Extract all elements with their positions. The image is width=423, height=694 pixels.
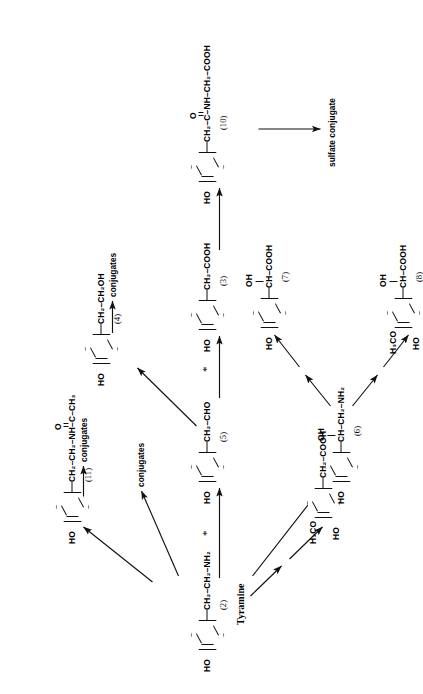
compound-number-8: (8) xyxy=(413,272,423,282)
label-h3co-9: H₃CO xyxy=(308,521,316,544)
compound-number-3: (3) xyxy=(217,276,227,286)
label-oh-7: OH xyxy=(244,274,252,287)
arrow-6-to-7-seg1 xyxy=(305,375,330,406)
label-ho-6: HO xyxy=(336,491,344,504)
label-ho-9: HO xyxy=(331,527,339,540)
label-ho-3: HO xyxy=(202,339,210,352)
compound-number-2: (2) xyxy=(217,600,227,610)
compound-name-tyramine: Tyramine xyxy=(234,584,245,625)
compound-4: HO CH₂–CH₂OH (4) xyxy=(84,334,118,364)
compound-number-4: (4) xyxy=(111,314,121,324)
label-ho-2: HO xyxy=(202,659,210,672)
compound-number-7: (7) xyxy=(279,272,289,282)
benzene-ring-icon xyxy=(324,452,358,482)
arrow-5-to-4 xyxy=(137,368,196,426)
sidechain-2: CH₂–CH₂–NH₂ xyxy=(202,551,210,610)
benzene-ring-icon xyxy=(190,620,224,650)
sidechain-11: CH₂–CH₂–NH–C–CH₃ xyxy=(67,394,75,482)
label-oh-8: OH xyxy=(378,274,386,287)
compound-3: HO CH₂–COOH (3) xyxy=(190,300,224,330)
arrow-6-to-7-seg2 xyxy=(274,335,299,367)
compound-8: HO H₃CO CH–COOH OH (8) xyxy=(386,298,420,328)
label-ho-7: HO xyxy=(264,337,272,350)
arrow-6-to-8-seg1 xyxy=(352,375,377,406)
arrow-tyramine-to-conjugates-mid xyxy=(141,491,178,576)
benzene-ring-icon xyxy=(386,298,420,328)
sidechain-5: CH₂–CHO xyxy=(202,402,210,443)
compound-number-11: (11) xyxy=(82,468,92,482)
conjugates-middle: conjugates xyxy=(135,443,145,487)
benzene-ring-icon xyxy=(55,492,89,522)
asterisk-step-1: * xyxy=(200,531,211,537)
benzene-ring-icon xyxy=(190,152,224,182)
conjugates-top: conjugates xyxy=(78,418,88,462)
benzene-ring-icon xyxy=(190,452,224,482)
sidechain-10: CH₂–C–NH–CH₂–COOH xyxy=(202,45,210,142)
label-o-10: O xyxy=(188,112,196,119)
sidechain-6: CH–CH₂–NH₂ xyxy=(336,387,344,442)
label-ho-8: HO xyxy=(411,337,419,350)
compound-number-5: (5) xyxy=(217,432,227,442)
benzene-ring-icon xyxy=(252,298,286,328)
compound-11: HO CH₂–CH₂–NH–C–CH₃ O (11) xyxy=(55,492,89,522)
compound-7: HO CH–COOH OH (7) xyxy=(252,298,286,328)
sulfate-conjugate-label: sulfate conjugate xyxy=(326,98,336,167)
compound-6: HO CH–CH₂–NH₂ OH (6) xyxy=(324,452,358,482)
label-h3co-8: H₃CO xyxy=(388,331,396,354)
sidechain-4: CH₂–CH₂OH xyxy=(96,273,104,324)
arrow-tyramine-to-9-seg1 xyxy=(250,566,281,596)
compound-5: HO CH₂–CHO (5) xyxy=(190,452,224,482)
compound-10: HO CH₂–C–NH–CH₂–COOH O (10) xyxy=(190,152,224,182)
conjugates-right: conjugates xyxy=(107,253,117,297)
compound-number-10: (10) xyxy=(217,116,227,130)
asterisk-step-2: * xyxy=(200,367,211,373)
label-o-11: O xyxy=(53,423,61,430)
sidechain-3: CH₂–COOH xyxy=(202,243,210,290)
label-oh-6: OH xyxy=(316,428,324,441)
benzene-ring-icon xyxy=(190,300,224,330)
label-ho-11: HO xyxy=(67,531,75,544)
label-ho-4: HO xyxy=(96,373,104,386)
sidechain-8: CH–COOH xyxy=(398,245,406,288)
sidechain-7: CH–COOH xyxy=(264,245,272,288)
compound-number-6: (6) xyxy=(351,426,361,436)
compound-2-tyramine: HO CH₂–CH₂–NH₂ (2) Tyramine xyxy=(190,620,224,650)
benzene-ring-icon xyxy=(84,334,118,364)
arrow-tyramine-to-11 xyxy=(83,527,152,582)
label-ho-5: HO xyxy=(202,491,210,504)
label-ho-10: HO xyxy=(202,191,210,204)
